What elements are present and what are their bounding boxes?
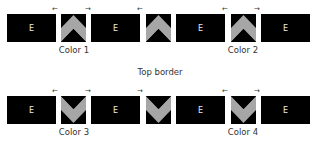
block-letter: E [29,24,34,33]
label-color-3: Color 3 [59,127,89,137]
block-e: E [176,96,225,124]
label-color-2: Color 2 [228,45,258,55]
flying-geese-piece-up [61,14,86,42]
arrow-left-icon: ← [52,6,58,13]
arrow-right-icon: → [254,88,260,95]
block-e: E [261,14,310,42]
arrow-left-icon: ← [52,88,58,95]
flying-geese-piece-up [231,14,256,42]
block-e: E [261,96,310,124]
chevron-up-icon [231,14,256,42]
block-letter: E [198,24,203,33]
flying-geese-piece-down [61,96,86,124]
arrow-right-icon: → [85,6,91,13]
block-e: E [91,96,140,124]
block-letter: E [113,24,118,33]
block-e: E [91,14,140,42]
arrow-right-icon: → [85,88,91,95]
bottom-row: E E E E [0,96,320,124]
arrow-left-icon: ← [222,88,228,95]
arrow-right-icon: → [254,6,260,13]
chevron-down-icon [146,96,171,124]
arrow-right-icon: → [137,88,143,95]
block-letter: E [29,106,34,115]
block-e: E [176,14,225,42]
block-letter: E [113,106,118,115]
chevron-up-icon [146,14,171,42]
top-row: E E E E [0,14,320,42]
label-color-4: Color 4 [228,127,258,137]
arrow-left-icon: ← [137,6,143,13]
chevron-down-icon [231,96,256,124]
label-color-1: Color 1 [59,45,89,55]
chevron-up-icon [61,14,86,42]
flying-geese-piece-up [146,14,171,42]
block-e: E [7,96,56,124]
label-top-border: Top border [137,67,182,77]
block-letter: E [283,24,288,33]
arrow-left-icon: ← [222,6,228,13]
flying-geese-piece-down [146,96,171,124]
chevron-down-icon [61,96,86,124]
block-e: E [7,14,56,42]
block-letter: E [198,106,203,115]
block-letter: E [283,106,288,115]
flying-geese-piece-down [231,96,256,124]
